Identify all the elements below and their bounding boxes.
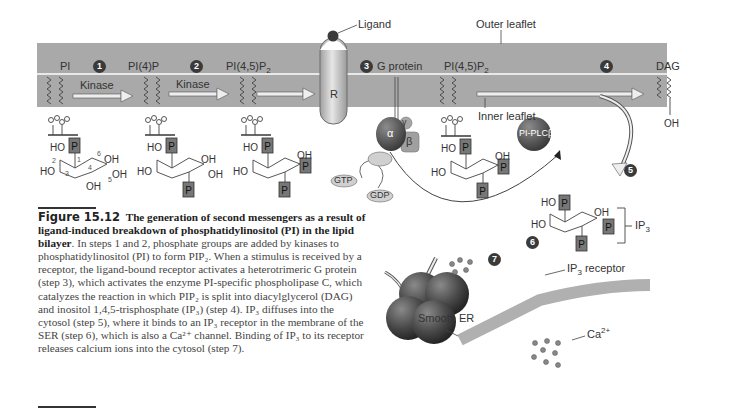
svg-text:P: P <box>578 239 585 250</box>
lipid-pip2-label: PI(4,5)P2 <box>226 60 271 75</box>
svg-text:OH: OH <box>208 169 223 180</box>
svg-text:P: P <box>302 161 309 172</box>
inner-leaflet-label: Inner leaflet <box>478 110 535 122</box>
svg-text:HO: HO <box>40 166 55 177</box>
svg-text:P: P <box>561 198 568 209</box>
pi-plc-beta-label: PI-PLCβ <box>519 128 553 138</box>
svg-text:OH: OH <box>86 181 101 192</box>
dag-oh: OH <box>664 118 679 129</box>
figure-number: Figure 15.12 <box>38 210 120 224</box>
calcium-label: Ca2+ <box>587 326 610 340</box>
outer-leaflet-label: Outer leaflet <box>476 18 536 30</box>
lipid-pip2-label-2: PI(4,5)P2 <box>444 60 489 75</box>
kinase-label-2: Kinase <box>176 78 210 90</box>
caption-rule-bottom <box>38 406 96 408</box>
svg-text:2: 2 <box>52 157 56 164</box>
receptor-label: R <box>330 88 338 100</box>
svg-text:OH: OH <box>104 154 119 165</box>
lipid-pi4p-label: PI(4)P <box>128 60 159 72</box>
svg-text:HO: HO <box>431 167 446 178</box>
smooth-er <box>460 285 650 340</box>
kinase-label-1: Kinase <box>80 79 114 91</box>
gamma-label: γ <box>402 117 407 127</box>
svg-text:P: P <box>281 185 288 196</box>
plasma-membrane <box>37 43 667 107</box>
svg-text:HO: HO <box>541 197 556 208</box>
receptor <box>320 31 347 125</box>
svg-text:HO: HO <box>137 166 152 177</box>
lipid-pi-label: PI <box>60 60 70 72</box>
beta-label: β <box>406 135 412 147</box>
svg-text:P: P <box>462 142 469 153</box>
svg-text:HO: HO <box>233 166 248 177</box>
svg-text:3: 3 <box>65 170 69 177</box>
svg-text:HO: HO <box>243 142 258 153</box>
svg-text:HO: HO <box>441 143 456 154</box>
svg-text:HO: HO <box>147 142 162 153</box>
svg-text:P: P <box>185 185 192 196</box>
step-1-marker: 1 <box>93 60 106 73</box>
svg-text:1: 1 <box>77 156 81 163</box>
ligand-label: Ligand <box>358 18 391 30</box>
step-4-marker: 4 <box>600 60 613 73</box>
g-protein-label: G protein <box>377 60 422 72</box>
svg-text:OH: OH <box>201 154 216 165</box>
ip3-receptor-label: IP3 receptor <box>567 262 625 277</box>
svg-text:OH: OH <box>112 169 127 180</box>
svg-text:P: P <box>605 222 612 233</box>
step-7-marker: 7 <box>488 253 501 266</box>
svg-text:6: 6 <box>97 150 101 157</box>
svg-text:4: 4 <box>88 164 92 171</box>
svg-text:5: 5 <box>108 176 112 183</box>
svg-text:OH: OH <box>594 207 609 218</box>
svg-text:P: P <box>479 186 486 197</box>
gtp-label: GTP <box>334 175 353 185</box>
svg-text:HO: HO <box>50 142 65 153</box>
alpha-label: α <box>387 127 393 139</box>
svg-text:P: P <box>168 141 175 152</box>
step-3-marker: 3 <box>360 60 373 73</box>
svg-text:P: P <box>71 141 78 152</box>
step-5-marker: 5 <box>624 164 637 177</box>
ip3-label: IP3 <box>635 219 650 234</box>
step-6-marker: 6 <box>526 236 539 249</box>
svg-text:P: P <box>264 141 271 152</box>
smooth-er-label: Smooth ER <box>418 312 474 324</box>
gdp-label: GDP <box>370 190 390 200</box>
lipid-dag-label: DAG <box>656 60 680 72</box>
svg-text:P: P <box>500 162 507 173</box>
step-2-marker: 2 <box>190 60 203 73</box>
svg-text:OH: OH <box>297 150 312 161</box>
svg-text:OH: OH <box>495 151 510 162</box>
caption-rule-top <box>38 207 96 209</box>
caption-body: . In steps 1 and 2, phosphate groups are… <box>38 237 364 354</box>
figure-caption: Figure 15.12 The generation of second me… <box>38 211 368 355</box>
svg-text:HO: HO <box>531 219 546 230</box>
